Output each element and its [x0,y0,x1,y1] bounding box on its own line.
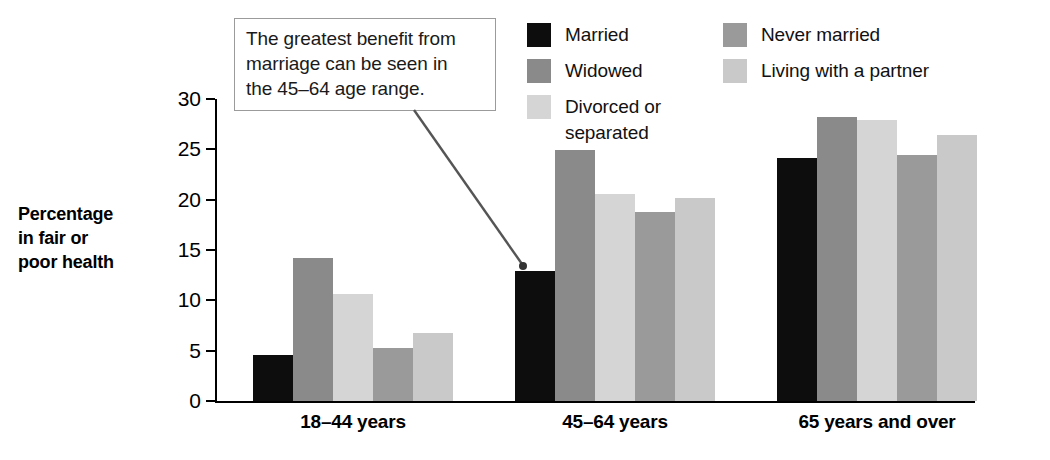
bar [777,158,817,401]
bar [333,294,373,401]
bar [293,258,333,401]
y-tick-label: 10 [178,288,201,312]
bar [857,120,897,401]
legend-item-widowed: Widowed [527,58,661,88]
x-axis-group-label: 18–44 years [300,411,406,433]
y-tick-label: 0 [189,389,201,413]
legend-label-never-married: Never married [761,22,880,48]
legend-item-married: Married [527,22,661,52]
legend-item-never-married: Never married [723,22,929,52]
bar [897,155,937,401]
bar [675,198,715,401]
y-tick-label: 30 [178,87,201,111]
bar [413,333,453,401]
y-tick-mark [206,148,215,150]
y-tick-label: 20 [178,188,201,212]
legend-swatch-married [527,23,551,47]
y-tick-mark [206,299,215,301]
bar [937,135,977,401]
y-axis-title-line-1: Percentage [18,203,178,227]
bar [635,212,675,401]
bar [817,117,857,401]
y-tick-mark [206,249,215,251]
y-tick-mark [206,350,215,352]
plot-area: 051015202530 18–44 years45–64 years65 ye… [215,99,975,401]
legend-swatch-widowed [527,59,551,83]
y-tick-mark [206,98,215,100]
bar [595,194,635,401]
y-tick-mark [206,400,215,402]
legend-column-2: Never married Living with a partner [723,22,929,94]
legend-label-widowed: Widowed [565,58,642,84]
bars-layer [215,99,975,401]
y-axis-title-line-3: poor health [18,251,178,275]
annotation-line-1: The greatest benefit from [246,26,485,51]
y-axis-title-line-2: in fair or [18,227,178,251]
legend-swatch-living-with-a-partner [723,59,747,83]
annotation-callout: The greatest benefit from marriage can b… [234,18,496,111]
legend-label-living-with-a-partner: Living with a partner [761,58,929,84]
legend-swatch-never-married [723,23,747,47]
bar [555,150,595,401]
bar [515,271,555,401]
y-tick-mark [206,199,215,201]
legend-label-married: Married [565,22,629,48]
x-axis-group-label: 65 years and over [798,411,955,433]
y-tick-label: 25 [178,137,201,161]
chart-figure: The greatest benefit from marriage can b… [0,0,1050,460]
legend-item-living-with-a-partner: Living with a partner [723,58,929,88]
annotation-line-2: marriage can be seen in [246,51,485,76]
y-tick-label: 15 [178,238,201,262]
y-axis-title: Percentage in fair or poor health [18,203,178,274]
y-tick-label: 5 [189,339,201,363]
x-axis-line [215,401,975,403]
bar [373,348,413,401]
bar [253,355,293,401]
annotation-line-3: the 45–64 age range. [246,76,485,101]
x-axis-group-label: 45–64 years [562,411,668,433]
